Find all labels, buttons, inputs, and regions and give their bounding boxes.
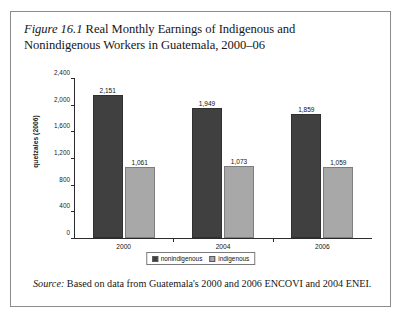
chart-legend: nonindigenousindigenous <box>146 252 256 265</box>
y-axis-tick-label: 1,200 <box>32 149 70 156</box>
y-axis-tick-label: 1,600 <box>32 122 70 129</box>
bar-nonindigenous-2004[interactable]: 1,949 <box>192 108 222 238</box>
source-note: Source: Based on data from Guatemala's 2… <box>33 277 373 291</box>
bar-indigenous-2006[interactable]: 1,059 <box>323 167 353 238</box>
bar-nonindigenous-2006[interactable]: 1,859 <box>291 114 321 238</box>
y-axis-tick-label: 0 <box>32 229 70 236</box>
source-label: Source: <box>33 278 64 289</box>
bar-indigenous-2004[interactable]: 1,073 <box>224 166 254 238</box>
bar-indigenous-2000[interactable]: 1,061 <box>125 167 155 238</box>
y-axis-line <box>74 78 75 239</box>
y-axis-tick-mark <box>71 185 74 186</box>
y-axis-tick-mark <box>71 105 74 106</box>
x-axis-line <box>74 238 372 239</box>
plot-area: 04008001,2001,6002,0002,400 2,1511,06120… <box>74 78 372 239</box>
y-axis-tick-mark <box>71 131 74 132</box>
bar-group: 1,8591,0592006 <box>291 78 353 238</box>
y-axis-tick-mark <box>71 78 74 79</box>
figure-label: Figure 16.1 <box>24 22 82 36</box>
bar-value-label: 1,073 <box>231 158 247 165</box>
legend-swatch-icon <box>152 256 158 262</box>
bar-nonindigenous-2000[interactable]: 2,151 <box>93 95 123 238</box>
y-axis-tick-mark <box>71 238 74 239</box>
y-axis-tick-mark <box>71 158 74 159</box>
y-axis-tick-label: 800 <box>32 175 70 182</box>
source-text: Based on data from Guatemala's 2000 and … <box>67 278 372 289</box>
y-axis-tick-label: 2,000 <box>32 95 70 102</box>
bar-group: 1,9491,0732004 <box>192 78 254 238</box>
x-axis-tick-mark <box>173 239 174 242</box>
legend-swatch-icon <box>209 256 215 262</box>
legend-item-indigenous[interactable]: indigenous <box>209 255 249 262</box>
y-axis-tick-label: 400 <box>32 202 70 209</box>
x-axis-tick-label: 2000 <box>116 243 131 250</box>
bar-value-label: 1,059 <box>330 159 346 166</box>
bar-value-label: 1,859 <box>298 106 314 113</box>
x-axis-tick-label: 2004 <box>216 243 231 250</box>
legend-item-nonindigenous[interactable]: nonindigenous <box>152 255 203 262</box>
x-axis-tick-mark <box>273 239 274 242</box>
bar-value-label: 2,151 <box>100 87 116 94</box>
bar-value-label: 1,061 <box>132 159 148 166</box>
legend-label: nonindigenous <box>161 255 203 262</box>
page-title: Figure 16.1 Real Monthly Earnings of Ind… <box>24 22 374 53</box>
legend-label: indigenous <box>218 255 249 262</box>
figure-frame: Figure 16.1 Real Monthly Earnings of Ind… <box>10 11 391 307</box>
bar-value-label: 1,949 <box>199 100 215 107</box>
chart-area: quetzales (2006) 04008001,2001,6002,0002… <box>11 64 392 254</box>
x-axis-tick-label: 2006 <box>315 243 330 250</box>
y-axis-tick-label: 2,400 <box>32 69 70 76</box>
bar-group: 2,1511,0612000 <box>93 78 155 238</box>
y-axis-tick-mark <box>71 211 74 212</box>
